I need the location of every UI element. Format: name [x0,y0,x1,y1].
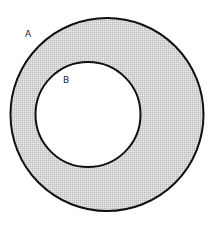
label-a: A [25,29,32,39]
inner-circle-b [36,62,141,167]
set-diagram: A B [0,0,213,225]
label-b: B [63,75,69,85]
